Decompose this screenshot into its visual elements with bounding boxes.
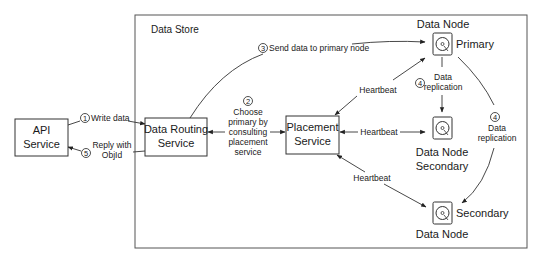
svg-text:2: 2 xyxy=(246,97,250,106)
svg-text:4: 4 xyxy=(493,113,497,122)
heartbeat-label: Heartbeat xyxy=(353,173,391,183)
svg-text:consulting: consulting xyxy=(229,127,268,137)
svg-text:5: 5 xyxy=(84,149,88,158)
heartbeat-label: Heartbeat xyxy=(359,85,397,95)
routing-label-1: Data Routing xyxy=(144,123,208,135)
send-data-label: Send data to primary node xyxy=(269,43,369,53)
svg-text:4: 4 xyxy=(418,79,422,88)
secondary1-title: Data Node xyxy=(416,146,469,158)
secondary2-title: Data Node xyxy=(416,228,469,240)
routing-label-2: Service xyxy=(158,137,195,149)
svg-text:service: service xyxy=(235,147,262,157)
api-service-label-2: Service xyxy=(23,138,60,150)
write-data-label: Write data xyxy=(91,113,130,123)
data-routing-service-node[interactable]: Data Routing Service xyxy=(144,118,208,156)
hard-disk-icon xyxy=(433,202,452,224)
svg-text:Data: Data xyxy=(488,123,506,133)
primary-node-role: Primary xyxy=(456,38,494,50)
svg-text:replication: replication xyxy=(424,82,463,92)
architecture-diagram: Data Store API Service Data Routing Serv… xyxy=(0,0,535,262)
secondary2-role: Secondary xyxy=(456,207,509,219)
placement-label-2: Service xyxy=(294,135,331,147)
placement-label-1: Placement xyxy=(287,121,339,133)
svg-text:1: 1 xyxy=(83,114,87,123)
svg-text:replication: replication xyxy=(478,133,517,143)
svg-text:primary by: primary by xyxy=(228,117,268,127)
data-store-label: Data Store xyxy=(151,24,199,35)
svg-text:Data: Data xyxy=(434,72,452,82)
edge-write-data: 1 Write data xyxy=(68,113,145,125)
reply-label-1: Reply with xyxy=(92,140,131,150)
placement-service-node[interactable]: Placement Service xyxy=(286,116,339,154)
heartbeat-label: Heartbeat xyxy=(360,127,398,137)
svg-text:placement: placement xyxy=(228,137,268,147)
svg-text:3: 3 xyxy=(261,44,265,53)
svg-text:Choose: Choose xyxy=(233,107,263,117)
hard-disk-icon xyxy=(433,33,452,55)
hard-disk-icon xyxy=(433,117,452,139)
primary-node-title: Data Node xyxy=(417,18,470,30)
edge-reply: 5 Reply with ObjId xyxy=(68,140,145,160)
api-service-node[interactable]: API Service xyxy=(15,119,68,156)
api-service-label-1: API xyxy=(33,124,51,136)
reply-label-2: ObjId xyxy=(102,150,123,160)
secondary1-role: Secondary xyxy=(416,160,469,172)
